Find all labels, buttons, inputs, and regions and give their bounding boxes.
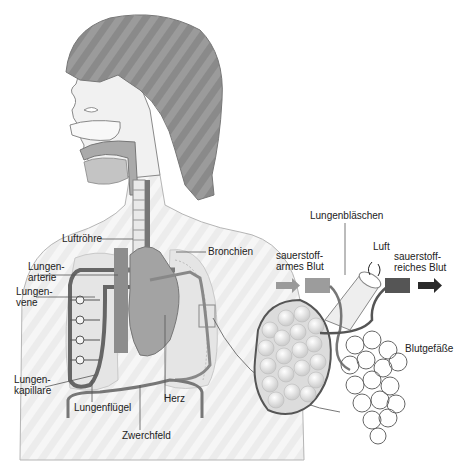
- respiratory-system-diagram: [0, 0, 462, 461]
- label-bronchien: Bronchien: [208, 246, 253, 257]
- head: [66, 15, 222, 200]
- label-sauerstoffreiches-blut: sauerstoff- reiches Blut: [394, 251, 446, 273]
- label-lungenkapillare: Lungen- kapillare: [14, 374, 51, 396]
- label-lungenarterie: Lungen- arterie: [28, 261, 65, 283]
- label-zwerchfeld: Zwerchfeld: [122, 430, 171, 441]
- label-lungenfluegel: Lungenflügel: [74, 402, 131, 413]
- label-luft: Luft: [373, 241, 390, 252]
- label-lungenvene: Lungen- vene: [16, 286, 53, 308]
- label-sauerstoffarmes-blut: sauerstoff- armes Blut: [276, 250, 324, 272]
- label-luftroehre: Luftröhre: [62, 233, 102, 244]
- label-herz: Herz: [164, 393, 185, 404]
- label-lungenblaeschen: Lungenbläschen: [310, 210, 383, 221]
- label-blutgefaesse: Blutgefäße: [405, 343, 453, 354]
- trachea: [133, 180, 150, 255]
- arrow-oxygenated-out: [418, 278, 442, 293]
